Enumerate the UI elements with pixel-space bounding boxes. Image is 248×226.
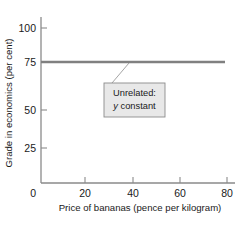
y-tick-label-50: 50 <box>24 104 36 116</box>
y-axis-ticks <box>41 28 47 148</box>
y-tick-label-0: 0 <box>30 187 36 199</box>
x-axis-title: Price of bananas (pence per kilogram) <box>59 202 222 213</box>
annotation-line-2: y constant <box>112 101 156 111</box>
y-tick-label-25: 25 <box>24 142 36 154</box>
x-axis-ticks <box>85 177 227 183</box>
annotation-line-1: Unrelated: <box>113 88 156 98</box>
x-tick-label-80: 80 <box>221 187 233 199</box>
scatter-plot-figure: 100 75 50 25 0 20 40 60 80 Price of bana… <box>0 0 248 226</box>
x-tick-label-60: 60 <box>174 187 186 199</box>
annotation-leader-line <box>112 63 129 83</box>
chart-container: 100 75 50 25 0 20 40 60 80 Price of bana… <box>0 0 248 226</box>
y-tick-label-100: 100 <box>18 22 36 34</box>
y-axis-title: Grade in economics (per cent) <box>3 38 14 167</box>
x-tick-label-40: 40 <box>127 187 139 199</box>
annotation-line-2-rest: constant <box>118 101 156 111</box>
y-tick-label-75: 75 <box>24 56 36 68</box>
x-tick-label-20: 20 <box>79 187 91 199</box>
